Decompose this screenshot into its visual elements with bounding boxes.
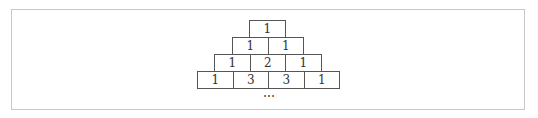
triangle-cell: 1 xyxy=(232,37,269,55)
triangle-cell: 1 xyxy=(268,37,305,55)
continuation-ellipsis: ⋯ xyxy=(0,89,538,103)
triangle-row-1: 1 xyxy=(249,20,286,38)
triangle-cell: 2 xyxy=(250,54,287,72)
triangle-row-4: 1 3 3 1 xyxy=(197,71,340,89)
triangle-cell: 1 xyxy=(304,71,341,89)
triangle-row-2: 1 1 xyxy=(232,37,304,55)
triangle-cell: 1 xyxy=(285,54,322,72)
triangle-cell: 3 xyxy=(268,71,305,89)
triangle-cell: 1 xyxy=(197,71,234,89)
triangle-cell: 1 xyxy=(214,54,251,72)
triangle-cell: 1 xyxy=(249,20,286,38)
triangle-cell: 3 xyxy=(233,71,270,89)
pascal-triangle: 1 1 1 1 2 1 1 3 3 1 ⋯ xyxy=(0,0,538,118)
triangle-row-3: 1 2 1 xyxy=(214,54,322,72)
